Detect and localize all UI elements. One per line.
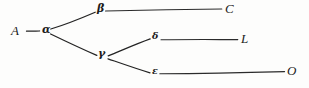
edge-gamma-delta xyxy=(108,39,150,56)
node-label-epsilon: ε xyxy=(152,66,158,76)
edge-alpha-beta xyxy=(51,12,95,29)
edge-alpha-gamma xyxy=(51,34,97,55)
node-label-delta: δ xyxy=(152,31,158,41)
edge-epsilon-O xyxy=(160,72,285,74)
node-label-A: A xyxy=(11,24,19,37)
node-label-alpha: α xyxy=(42,24,50,35)
edge-beta-C xyxy=(106,9,222,11)
edge-gamma-epsilon xyxy=(108,59,150,73)
node-label-gamma: γ xyxy=(98,48,105,59)
node-label-L: L xyxy=(241,32,248,45)
node-label-O: O xyxy=(287,64,296,77)
tree-diagram: A α β γ δ ε C L O xyxy=(0,0,309,88)
node-label-C: C xyxy=(225,2,234,15)
node-label-beta: β xyxy=(97,3,104,14)
